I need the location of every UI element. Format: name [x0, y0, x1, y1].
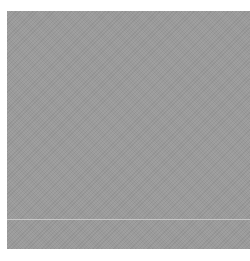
gray-square [7, 11, 250, 249]
horizontal-line [7, 219, 250, 220]
